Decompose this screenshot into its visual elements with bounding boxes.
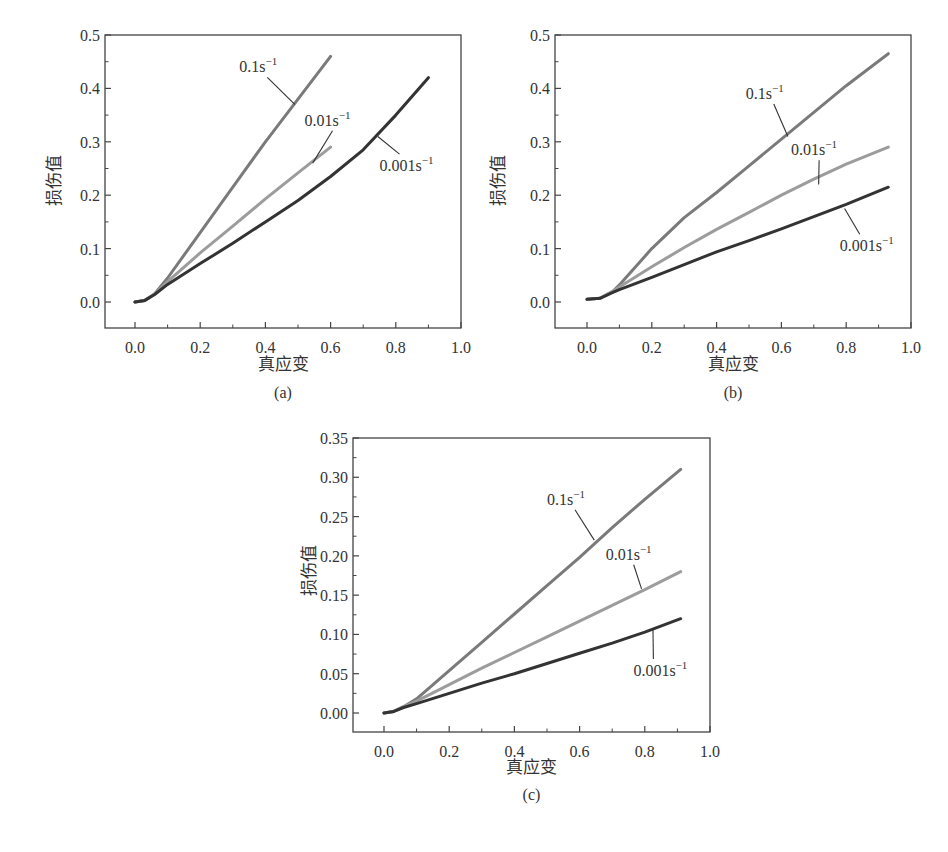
panel-label: (b)	[724, 384, 743, 402]
y-tick-label: 0.10	[320, 626, 348, 643]
series-line	[135, 147, 331, 302]
series-line	[135, 56, 331, 302]
series-leader-line	[267, 77, 294, 104]
chart-a-svg: 0.00.20.40.60.81.00.00.10.20.30.40.5真应变损…	[0, 0, 474, 410]
panel-label: (a)	[274, 384, 292, 402]
series-line	[587, 54, 888, 300]
x-tick-label: 0.2	[642, 339, 662, 356]
y-tick-label: 0.0	[530, 294, 550, 311]
x-tick-label: 1.0	[700, 743, 720, 760]
series-0.1: 0.1s−1	[135, 55, 331, 302]
series-label: 0.001s−1	[840, 234, 894, 254]
series-0.001: 0.001s−1	[587, 187, 894, 299]
x-tick-label: 1.0	[451, 339, 471, 356]
y-axis: 0.00.10.20.30.40.5	[80, 27, 111, 311]
series-leader-line	[378, 136, 400, 154]
x-tick-label: 0.6	[321, 339, 341, 356]
x-tick-label: 0.8	[836, 339, 856, 356]
y-tick-label: 0.35	[320, 430, 348, 447]
y-tick-label: 0.3	[530, 134, 550, 151]
chart-panel-c: 0.00.20.40.60.81.00.000.050.100.150.200.…	[230, 415, 730, 852]
series-label: 0.01s−1	[305, 109, 351, 129]
series-label: 0.001s−1	[633, 659, 687, 679]
series-0.01: 0.01s−1	[587, 138, 888, 299]
y-axis-title: 损伤值	[45, 155, 64, 206]
x-axis-title: 真应变	[708, 355, 759, 374]
y-axis-title: 损伤值	[489, 155, 508, 206]
series-label: 0.01s−1	[606, 543, 652, 563]
plot-frame	[555, 35, 911, 328]
series-label: 0.1s−1	[746, 82, 784, 102]
y-tick-label: 0.1	[80, 241, 100, 258]
y-tick-label: 0.30	[320, 469, 348, 486]
x-tick-label: 1.0	[901, 339, 921, 356]
chart-panel-a: 0.00.20.40.60.81.00.00.10.20.30.40.5真应变损…	[0, 0, 474, 410]
series-label: 0.1s−1	[239, 55, 277, 75]
x-tick-label: 0.4	[707, 339, 727, 356]
series-line	[135, 78, 428, 302]
y-tick-label: 0.2	[80, 187, 100, 204]
y-tick-label: 0.4	[530, 80, 550, 97]
series-line	[587, 147, 888, 299]
series-label: 0.1s−1	[547, 488, 585, 508]
x-axis: 0.00.20.40.60.81.0	[125, 322, 471, 356]
y-tick-label: 0.1	[530, 241, 550, 258]
x-axis-title: 真应变	[506, 758, 557, 777]
x-tick-label: 0.8	[386, 339, 406, 356]
series-leader-line	[845, 209, 860, 235]
x-tick-label: 0.0	[125, 339, 145, 356]
y-tick-label: 0.5	[530, 27, 550, 44]
x-tick-label: 0.4	[255, 339, 275, 356]
series-leader-line	[634, 565, 642, 589]
series-0.001: 0.001s−1	[384, 619, 687, 713]
x-axis-title: 真应变	[258, 355, 309, 374]
y-tick-label: 0.20	[320, 548, 348, 565]
y-tick-label: 0.5	[80, 27, 100, 44]
x-tick-label: 0.2	[190, 339, 210, 356]
chart-b-svg: 0.00.20.40.60.81.00.00.10.20.30.40.5真应变损…	[474, 0, 948, 410]
series-leader-line	[774, 104, 788, 136]
plot-frame	[105, 35, 461, 328]
panel-label: (c)	[523, 786, 541, 804]
y-tick-label: 0.15	[320, 587, 348, 604]
series-line	[384, 572, 681, 713]
y-tick-label: 0.00	[320, 705, 348, 722]
x-tick-label: 0.0	[577, 339, 597, 356]
y-tick-label: 0.2	[530, 187, 550, 204]
series-0.01: 0.01s−1	[135, 109, 350, 302]
y-tick-label: 0.25	[320, 509, 348, 526]
x-tick-label: 0.6	[570, 743, 590, 760]
x-axis: 0.00.20.40.60.81.0	[577, 322, 921, 356]
series-leader-line	[575, 510, 594, 540]
chart-panel-b: 0.00.20.40.60.81.00.00.10.20.30.40.5真应变损…	[474, 0, 948, 410]
x-tick-label: 0.0	[374, 743, 394, 760]
y-axis-title: 损伤值	[300, 545, 319, 596]
x-tick-label: 0.2	[439, 743, 459, 760]
y-axis: 0.00.10.20.30.40.5	[530, 27, 561, 311]
y-tick-label: 0.3	[80, 134, 100, 151]
y-tick-label: 0.0	[80, 294, 100, 311]
x-tick-label: 0.6	[771, 339, 791, 356]
x-tick-label: 0.8	[635, 743, 655, 760]
series-label: 0.01s−1	[791, 138, 837, 158]
series-0.001: 0.001s−1	[135, 78, 433, 302]
chart-c-svg: 0.00.20.40.60.81.00.000.050.100.150.200.…	[230, 415, 730, 852]
series-0.1: 0.1s−1	[587, 54, 888, 300]
y-tick-label: 0.05	[320, 666, 348, 683]
x-axis: 0.00.20.40.60.81.0	[374, 726, 720, 760]
y-tick-label: 0.4	[80, 80, 100, 97]
series-label: 0.001s−1	[380, 154, 434, 174]
